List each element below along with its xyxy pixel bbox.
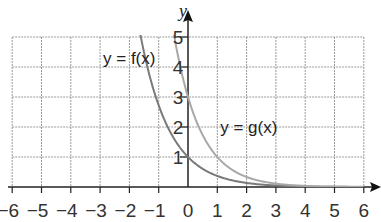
x-tick-label: 4 bbox=[300, 200, 311, 221]
x-tick-label: −1 bbox=[144, 200, 166, 221]
x-tick-label: −5 bbox=[27, 200, 49, 221]
x-tick-label: 5 bbox=[329, 200, 340, 221]
label-f: y = f(x) bbox=[103, 49, 155, 68]
x-tick-label: 0 bbox=[183, 200, 194, 221]
y-tick-label: 3 bbox=[173, 87, 184, 108]
x-tick-label: 3 bbox=[271, 200, 282, 221]
x-tick-label: −4 bbox=[56, 200, 78, 221]
y-tick-label: 5 bbox=[173, 27, 184, 48]
curve-g bbox=[173, 31, 363, 187]
x-tick-label: −2 bbox=[115, 200, 137, 221]
chart: −6−5−4−3−2−1012345612345yy = f(x)y = g(x… bbox=[0, 0, 381, 222]
x-tick-label: 6 bbox=[359, 200, 370, 221]
y-tick-label: 4 bbox=[173, 57, 184, 78]
x-tick-label: −3 bbox=[85, 200, 107, 221]
x-tick-label: −6 bbox=[0, 200, 19, 221]
y-tick-label: 2 bbox=[173, 117, 184, 138]
y-axis-name: y bbox=[177, 1, 187, 21]
x-tick-label: 2 bbox=[241, 200, 252, 221]
label-g: y = g(x) bbox=[220, 118, 277, 137]
x-tick-label: 1 bbox=[212, 200, 223, 221]
y-tick-label: 1 bbox=[173, 147, 184, 168]
labels: −6−5−4−3−2−1012345612345yy = f(x)y = g(x… bbox=[0, 1, 369, 221]
